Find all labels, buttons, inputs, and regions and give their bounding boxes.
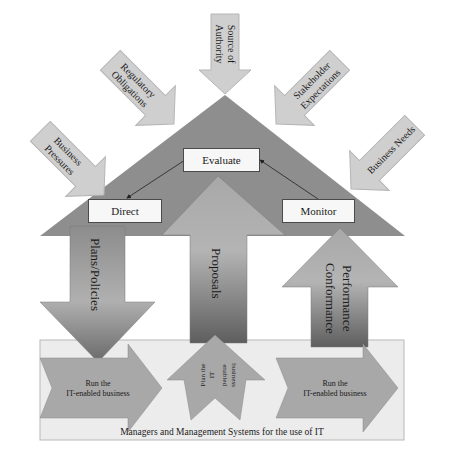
run-right-label-2: IT-enabled business bbox=[303, 389, 366, 398]
conformance-label: Conformance bbox=[323, 263, 338, 334]
performance-label: Performance bbox=[340, 265, 355, 332]
input-arrow-regulatory-obligations: Regulatory Obligations bbox=[91, 41, 194, 144]
plan-label-2: IT bbox=[208, 371, 216, 378]
run-right-label-1: Run the bbox=[322, 379, 348, 388]
source-of-authority-label-2: Authority bbox=[214, 25, 225, 64]
plans-policies-label: Plans/Policies bbox=[88, 238, 103, 311]
direct-box: Direct bbox=[88, 199, 162, 223]
plan-label-3: enabled bbox=[221, 364, 229, 386]
proposals-label: Proposals bbox=[209, 248, 224, 299]
evaluate-box: Evaluate bbox=[183, 148, 260, 172]
run-left-label-2: IT-enabled business bbox=[66, 389, 129, 398]
management-caption: Managers and Management Systems for the … bbox=[120, 427, 324, 437]
run-left-label-1: Run the bbox=[85, 379, 111, 388]
monitor-box: Monitor bbox=[282, 199, 355, 223]
input-arrow-stakeholder-expectations: Stakeholder Expectations bbox=[256, 41, 359, 144]
diagram-canvas: Business Pressures Regulatory Obligation… bbox=[0, 0, 450, 454]
plan-label-1: Plan the bbox=[199, 364, 207, 387]
plan-label-4: business bbox=[230, 363, 238, 387]
source-of-authority-label: Source of bbox=[226, 25, 237, 64]
input-arrow-source-of-authority: Source of Authority bbox=[199, 14, 251, 94]
performance-conformance-arrow bbox=[282, 228, 398, 347]
